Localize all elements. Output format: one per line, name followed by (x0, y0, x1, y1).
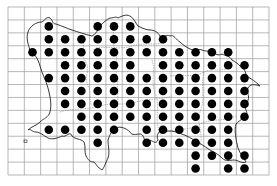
occurrence-dot (224, 113, 233, 122)
occurrence-dot (240, 151, 249, 160)
occurrence-dot (93, 126, 102, 135)
occurrence-dot (93, 100, 102, 109)
occurrence-dot (240, 74, 249, 83)
occurrence-dot (208, 151, 217, 160)
occurrence-dot (45, 74, 54, 83)
occurrence-dot (208, 126, 217, 135)
occurrence-dot (126, 35, 135, 44)
occurrence-dot (175, 100, 184, 109)
occurrence-dot (110, 100, 119, 109)
occurrence-dot (126, 61, 135, 70)
occurrence-dot (61, 100, 70, 109)
occurrence-dot (224, 151, 233, 160)
occurrence-dot (110, 48, 119, 57)
occurrence-dot (61, 48, 70, 57)
occurrence-dot (175, 61, 184, 70)
occurrence-dot (93, 138, 102, 147)
occurrence-dot (175, 48, 184, 57)
occurrence-dot (61, 126, 70, 135)
distribution-map (0, 0, 277, 186)
occurrence-dot (93, 22, 102, 31)
occurrence-dot (77, 87, 86, 96)
occurrence-dot (159, 35, 168, 44)
occurrence-dot (208, 87, 217, 96)
occurrence-dot (142, 126, 151, 135)
occurrence-dot (224, 138, 233, 147)
occurrence-dot (61, 35, 70, 44)
occurrence-dot (93, 35, 102, 44)
occurrence-dot (191, 48, 200, 57)
occurrence-dot (110, 87, 119, 96)
occurrence-dot (240, 61, 249, 70)
occurrence-dot (208, 138, 217, 147)
occurrence-dot (142, 138, 151, 147)
occurrence-dot (224, 87, 233, 96)
occurrence-dot (191, 151, 200, 160)
occurrence-dot (110, 35, 119, 44)
occurrence-dot (159, 113, 168, 122)
occurrence-dot (240, 100, 249, 109)
occurrence-dot (61, 61, 70, 70)
occurrence-dot (126, 87, 135, 96)
occurrence-dot (45, 48, 54, 57)
occurrence-dot (126, 48, 135, 57)
occurrence-dot (45, 126, 54, 135)
map-canvas (0, 0, 277, 186)
occurrence-dot (77, 113, 86, 122)
occurrence-dot (142, 113, 151, 122)
occurrence-dot (159, 74, 168, 83)
occurrence-dot (126, 100, 135, 109)
occurrence-dot (93, 61, 102, 70)
occurrence-dot (191, 100, 200, 109)
occurrence-dot (224, 100, 233, 109)
occurrence-dot (61, 87, 70, 96)
occurrence-dot (208, 74, 217, 83)
occurrence-dot (142, 100, 151, 109)
occurrence-dot (126, 74, 135, 83)
occurrence-dot (110, 22, 119, 31)
occurrence-dot (142, 74, 151, 83)
occurrence-dot (159, 100, 168, 109)
occurrence-dot (191, 164, 200, 173)
occurrence-dot (175, 126, 184, 135)
occurrence-dot (191, 113, 200, 122)
occurrence-dot (159, 126, 168, 135)
occurrence-dot (240, 164, 249, 173)
occurrence-dot (208, 113, 217, 122)
occurrence-dot (224, 126, 233, 135)
occurrence-dot (77, 74, 86, 83)
occurrence-dot (175, 74, 184, 83)
occurrence-dot (93, 87, 102, 96)
occurrence-dot (77, 35, 86, 44)
occurrence-dot (175, 138, 184, 147)
occurrence-dot (224, 164, 233, 173)
occurrence-dot (159, 87, 168, 96)
occurrence-dot (208, 100, 217, 109)
occurrence-dot (159, 48, 168, 57)
occurrence-dot (110, 113, 119, 122)
occurrence-dot (159, 138, 168, 147)
occurrence-dot (175, 113, 184, 122)
occurrence-dot (208, 48, 217, 57)
occurrence-dot (240, 113, 249, 122)
occurrence-dot (110, 61, 119, 70)
occurrence-dot (191, 126, 200, 135)
occurrence-dot (142, 48, 151, 57)
occurrence-dot (224, 48, 233, 57)
occurrence-dot (191, 61, 200, 70)
occurrence-dot (159, 61, 168, 70)
occurrence-dot (45, 35, 54, 44)
occurrence-dot (240, 87, 249, 96)
occurrence-dot (93, 74, 102, 83)
occurrence-dot (110, 126, 119, 135)
occurrence-dot (175, 87, 184, 96)
occurrence-dot (208, 61, 217, 70)
occurrence-dot (110, 74, 119, 83)
occurrence-dot (77, 100, 86, 109)
occurrence-dot (45, 22, 54, 31)
occurrence-dot (28, 48, 37, 57)
occurrence-dot (93, 48, 102, 57)
occurrence-dot (93, 113, 102, 122)
occurrence-dot (126, 22, 135, 31)
occurrence-dot (61, 74, 70, 83)
